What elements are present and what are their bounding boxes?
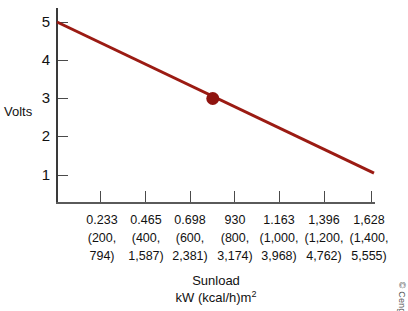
x-axis-tick — [234, 191, 235, 202]
y-axis-tick — [58, 175, 68, 176]
x-axis-line — [56, 202, 375, 204]
y-axis-tick-label: 3 — [28, 90, 50, 105]
x-axis-tick — [190, 191, 191, 202]
x-axis-tick — [145, 191, 146, 202]
x-tick-paren-line1: (1,400, — [342, 229, 396, 247]
y-axis-tick — [58, 98, 68, 99]
x-tick-paren-line2: 5,555) — [342, 247, 396, 265]
y-axis-title: Volts — [4, 105, 32, 119]
y-axis-tick — [58, 60, 68, 61]
x-axis-tick — [324, 191, 325, 202]
data-line-series-1 — [57, 22, 374, 173]
x-axis-tick — [100, 191, 101, 202]
y-axis-tick-label: 2 — [28, 128, 50, 143]
y-axis-tick-label: 4 — [28, 52, 50, 67]
x-axis-title-main: Sunload — [56, 272, 376, 289]
copyright-credit: © Cengage Learning 2013 — [397, 282, 407, 311]
x-axis-tick-label: 1,628 (1,400, 5,555) — [342, 211, 396, 265]
x-axis-units-text: kW (kcal/h)m — [176, 290, 252, 305]
data-point-marker — [206, 92, 219, 105]
y-axis-tick-label: 5 — [28, 14, 50, 29]
x-axis-title: Sunload kW (kcal/h)m2 — [56, 272, 376, 306]
x-axis-tick — [279, 191, 280, 202]
y-axis-tick — [58, 22, 68, 23]
y-axis-tick — [58, 136, 68, 137]
x-axis-tick-labels: 0.233 (200, 794) 0.465 (400, 1,587) 0.69… — [56, 211, 386, 267]
x-axis-units-exponent: 2 — [251, 289, 256, 299]
credit-container: © Cengage Learning 2013 — [392, 196, 406, 308]
x-axis-tick — [371, 191, 372, 202]
y-axis-line — [56, 8, 58, 203]
x-axis-title-units: kW (kcal/h)m2 — [56, 289, 376, 306]
y-axis-tick-label: 1 — [28, 167, 50, 182]
chart-figure: 5 4 3 2 1 Volts 0.233 (200, 794) 0.465 (… — [0, 0, 408, 311]
x-tick-kw-value: 1,628 — [342, 211, 396, 229]
